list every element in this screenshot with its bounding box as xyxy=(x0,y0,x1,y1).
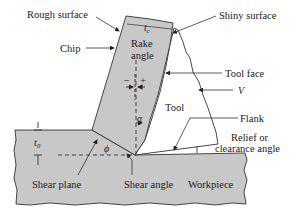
label-tool: Tool xyxy=(165,102,184,113)
label-rake-angle-2: angle xyxy=(131,50,154,61)
cutting-diagram: Rough surface Chip Rake angle tc Shiny s… xyxy=(0,0,302,220)
label-relief-1: Relief or xyxy=(231,132,269,143)
label-rake-angle-1: Rake xyxy=(131,38,153,49)
label-rough-surface: Rough surface xyxy=(27,9,88,20)
label-shiny-surface: Shiny surface xyxy=(219,10,277,21)
label-workpiece: Workpiece xyxy=(188,179,234,190)
label-alpha: α xyxy=(137,113,143,124)
label-tool-face: Tool face xyxy=(225,68,265,79)
label-velocity: V xyxy=(238,85,246,96)
label-flank: Flank xyxy=(240,113,265,124)
label-shear-plane: Shear plane xyxy=(32,179,82,190)
label-relief-2: clearance angle xyxy=(215,143,280,154)
label-phi: ϕ xyxy=(104,143,109,154)
label-plus: + xyxy=(140,75,146,86)
label-shear-angle: Shear angle xyxy=(124,179,174,190)
label-minus: − xyxy=(124,75,130,86)
label-chip: Chip xyxy=(60,43,80,54)
